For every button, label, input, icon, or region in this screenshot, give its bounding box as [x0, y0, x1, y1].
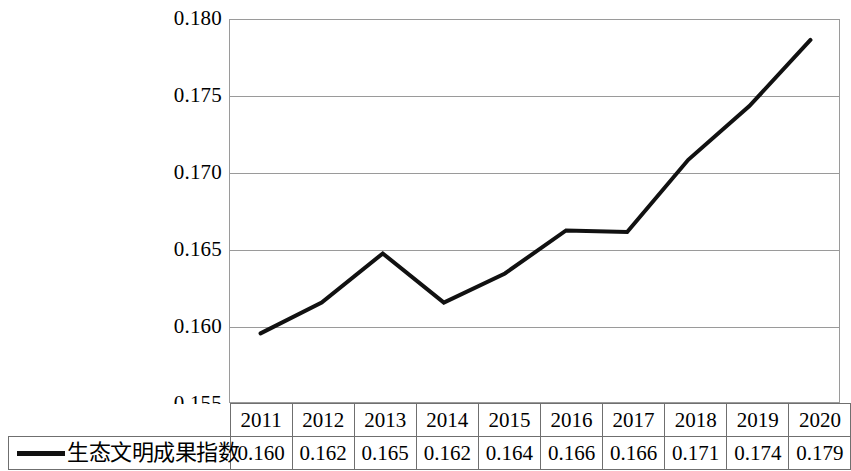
- plot-area: [229, 19, 840, 403]
- y-tick-label-0175: 0.175: [112, 85, 222, 106]
- y-tick-label-0180: 0.180: [112, 8, 222, 29]
- legend-line-icon: [17, 451, 65, 456]
- series-polyline: [261, 40, 811, 333]
- value-cell-2014: 0.162: [416, 437, 478, 470]
- year-header-2012: 2012: [292, 404, 354, 437]
- year-header-2016: 2016: [540, 404, 602, 437]
- table-row-values: 生态文明成果指数 0.160 0.162 0.165 0.162 0.164 0…: [9, 437, 851, 470]
- value-cell-2012: 0.162: [292, 437, 354, 470]
- y-tick-label-0165: 0.165: [112, 239, 222, 260]
- value-cell-2011: 0.160: [230, 437, 292, 470]
- year-header-2018: 2018: [665, 404, 727, 437]
- year-header-2019: 2019: [727, 404, 789, 437]
- series-line-ecological-civilization-index: [230, 20, 841, 404]
- legend-header-spacer: [9, 404, 231, 437]
- data-table: 2011 2012 2013 2014 2015 2016 2017 2018 …: [8, 403, 851, 470]
- legend-inner: 生态文明成果指数: [9, 437, 230, 469]
- value-cell-2017: 0.166: [603, 437, 665, 470]
- legend-entry: 生态文明成果指数: [9, 437, 231, 470]
- value-cell-2018: 0.171: [665, 437, 727, 470]
- year-header-2013: 2013: [354, 404, 416, 437]
- value-cell-2016: 0.166: [540, 437, 602, 470]
- table-row-years: 2011 2012 2013 2014 2015 2016 2017 2018 …: [9, 404, 851, 437]
- value-cell-2015: 0.164: [478, 437, 540, 470]
- y-tick-label-0160: 0.160: [112, 316, 222, 337]
- year-header-2015: 2015: [478, 404, 540, 437]
- value-cell-2013: 0.165: [354, 437, 416, 470]
- legend-series-label: 生态文明成果指数: [67, 437, 239, 469]
- value-cell-2019: 0.174: [727, 437, 789, 470]
- value-cell-2020: 0.179: [789, 437, 851, 470]
- year-header-2020: 2020: [789, 404, 851, 437]
- year-header-2014: 2014: [416, 404, 478, 437]
- y-axis-tick-labels: 0.180 0.175 0.170 0.165 0.160 0.155: [108, 0, 222, 471]
- year-header-2017: 2017: [603, 404, 665, 437]
- year-header-2011: 2011: [230, 404, 292, 437]
- y-tick-label-0170: 0.170: [112, 162, 222, 183]
